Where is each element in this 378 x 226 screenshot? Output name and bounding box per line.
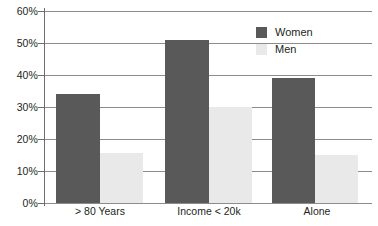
bars-layer xyxy=(0,0,378,226)
legend-label-women: Women xyxy=(275,27,313,38)
bar-men-2[interactable] xyxy=(315,155,358,203)
legend-label-men: Men xyxy=(275,44,296,55)
bar-chart: 60% 50% 40% 30% 20% 10% 0% > 80 Years In… xyxy=(0,0,378,226)
x-axis-label-2: Alone xyxy=(262,206,372,217)
bar-women-1[interactable] xyxy=(165,40,209,203)
legend-swatch-women-icon xyxy=(256,27,267,38)
bar-women-2[interactable] xyxy=(272,78,315,203)
legend: Women Men xyxy=(256,24,313,58)
bar-men-1[interactable] xyxy=(209,107,252,203)
x-axis-label-1: Income < 20k xyxy=(152,206,266,217)
legend-item-women[interactable]: Women xyxy=(256,24,313,41)
bar-women-0[interactable] xyxy=(56,94,100,203)
legend-swatch-men-icon xyxy=(256,44,267,55)
bar-men-0[interactable] xyxy=(100,153,143,203)
legend-item-men[interactable]: Men xyxy=(256,41,313,58)
x-axis-label-0: > 80 Years xyxy=(44,206,156,217)
